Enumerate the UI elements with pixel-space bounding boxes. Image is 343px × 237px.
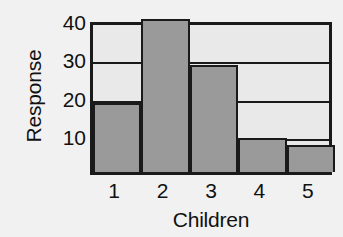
y-tick-label: 30 (46, 50, 86, 71)
bar[interactable] (141, 19, 189, 172)
plot-area (90, 22, 332, 175)
x-axis-title: Children (90, 208, 332, 232)
x-tick-label: 4 (235, 180, 283, 201)
bar[interactable] (238, 138, 286, 172)
bar[interactable] (190, 65, 238, 172)
bar-chart-figure: Response 10203040 12345 Children (0, 0, 343, 237)
x-tick-label: 5 (284, 180, 332, 201)
y-tick-label: 20 (46, 89, 86, 110)
y-axis-tick-labels: 10203040 (42, 0, 86, 237)
x-tick-label: 3 (187, 180, 235, 201)
bar[interactable] (287, 145, 335, 172)
plot-inner (93, 25, 329, 172)
y-tick-label: 10 (46, 127, 86, 148)
bar[interactable] (93, 103, 141, 172)
y-tick-label: 40 (46, 12, 86, 33)
x-axis-tick-labels: 12345 (90, 180, 332, 206)
x-tick-label: 2 (138, 180, 186, 201)
x-tick-label: 1 (90, 180, 138, 201)
